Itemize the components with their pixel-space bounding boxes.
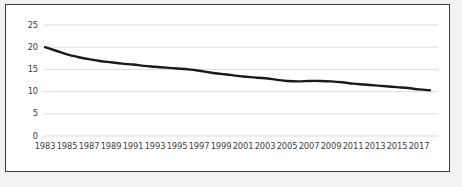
x-axis-tick-label: 2003	[253, 141, 277, 151]
y-axis-tick-label: 15	[16, 64, 38, 74]
y-axis-tick-label: 0	[16, 131, 38, 141]
x-axis-tick-label: 2011	[341, 141, 365, 151]
x-axis-tick-label: 1983	[33, 141, 57, 151]
x-axis-tick-label: 1989	[99, 141, 123, 151]
line-chart-plot	[0, 0, 462, 187]
x-axis-tick-label: 2015	[385, 141, 409, 151]
x-axis-tick-label: 1985	[55, 141, 79, 151]
y-axis-tick-label: 25	[16, 20, 38, 30]
y-axis-tick-label: 10	[16, 86, 38, 96]
x-axis-tick-label: 1999	[209, 141, 233, 151]
data-series-line	[45, 47, 430, 90]
x-axis-tick-label: 1995	[165, 141, 189, 151]
x-axis-tick-label: 2009	[319, 141, 343, 151]
x-axis-tick-label: 2001	[231, 141, 255, 151]
y-axis-tick-label: 5	[16, 108, 38, 118]
gridlines	[44, 25, 438, 136]
x-axis-tick-label: 1987	[77, 141, 101, 151]
x-axis-tick-label: 2013	[363, 141, 387, 151]
x-axis-tick-label: 1997	[187, 141, 211, 151]
x-axis-tick-label: 2007	[297, 141, 321, 151]
x-axis-tick-label: 1993	[143, 141, 167, 151]
x-axis-tick-label: 1991	[121, 141, 145, 151]
y-axis-tick-label: 20	[16, 42, 38, 52]
x-axis-tick-label: 2005	[275, 141, 299, 151]
chart-figure: 0510152025 19831985198719891991199319951…	[0, 0, 462, 187]
x-axis-tick-label: 2017	[407, 141, 431, 151]
